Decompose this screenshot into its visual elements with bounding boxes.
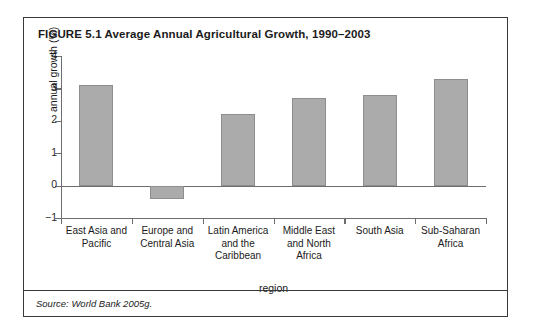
- x-axis-tick-mark: [132, 218, 133, 224]
- figure-title: FIGURE 5.1 Average Annual Agricultural G…: [38, 28, 370, 40]
- y-axis-tick-label: 2: [51, 113, 57, 125]
- x-axis-tick-mark: [486, 218, 487, 224]
- x-axis-tick-mark: [203, 218, 204, 224]
- x-axis-category-label: Sub-Saharan Africa: [415, 225, 486, 250]
- x-axis-category-label: East Asia and Pacific: [61, 225, 132, 250]
- x-axis-category-labels: East Asia and PacificEurope and Central …: [61, 225, 486, 277]
- y-axis-tick-label: −1: [45, 211, 57, 223]
- bar: [434, 79, 468, 186]
- bar: [150, 186, 184, 199]
- x-axis-category-label: Middle East and North Africa: [274, 225, 345, 263]
- x-axis-title: region: [61, 282, 486, 294]
- bar: [363, 95, 397, 186]
- y-axis-tick-label: 1: [51, 146, 57, 158]
- x-axis-category-label: South Asia: [344, 225, 415, 238]
- y-axis-tick-label: 0: [51, 178, 57, 190]
- source-note: Source: World Bank 2005g.: [36, 298, 152, 309]
- x-axis-tick-mark: [344, 218, 345, 224]
- x-axis-tick-mark: [415, 218, 416, 224]
- x-axis-category-label: Europe and Central Asia: [132, 225, 203, 250]
- chart-plot-area: −101234 annual growth (%): [61, 56, 486, 218]
- x-axis-tick-mark: [61, 218, 62, 224]
- y-axis-title: annual growth (%): [47, 27, 59, 112]
- bar: [292, 98, 326, 185]
- bar: [221, 114, 255, 185]
- bar: [79, 85, 113, 185]
- source-divider: [24, 290, 507, 291]
- x-axis-category-label: Latin America and the Caribbean: [203, 225, 274, 263]
- zero-baseline: [61, 186, 486, 187]
- x-axis-tick-mark: [274, 218, 275, 224]
- figure-container: FIGURE 5.1 Average Annual Agricultural G…: [23, 17, 508, 317]
- y-axis-line: [61, 56, 62, 218]
